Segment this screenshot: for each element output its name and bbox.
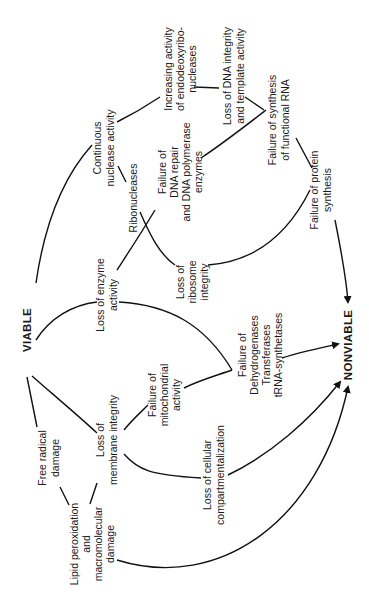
node-ribosome: Loss of ribosome integrity bbox=[174, 260, 210, 303]
node-dna-integrity: Loss of DNA integrity and template activ… bbox=[221, 26, 246, 125]
svg-text:Loss of DNA integrity: Loss of DNA integrity bbox=[221, 26, 233, 125]
cell-viability-flow-diagram: VIABLE NONVIABLE Free radical damage Lip… bbox=[0, 0, 369, 592]
svg-text:Ribonucleases: Ribonucleases bbox=[127, 164, 139, 233]
svg-text:Failure of synthesis: Failure of synthesis bbox=[266, 75, 278, 165]
svg-text:Failure of: Failure of bbox=[236, 333, 248, 377]
svg-text:nucleases: nucleases bbox=[186, 45, 198, 92]
svg-text:compartmentalization: compartmentalization bbox=[214, 425, 226, 525]
svg-text:Dehydrogenases: Dehydrogenases bbox=[248, 315, 260, 394]
svg-text:Continuous: Continuous bbox=[91, 121, 103, 174]
svg-text:damage: damage bbox=[104, 525, 116, 563]
node-endodeoxyribonucleases: Increasing activity of endodeoxyribo- nu… bbox=[162, 26, 198, 111]
svg-text:and template activity: and template activity bbox=[234, 27, 246, 123]
svg-text:damage: damage bbox=[49, 439, 61, 477]
node-membrane-integrity: Loss of membrane integrity bbox=[94, 394, 119, 485]
svg-text:Failure of protein: Failure of protein bbox=[308, 150, 320, 229]
svg-text:Increasing activity: Increasing activity bbox=[162, 27, 174, 111]
node-lipid-peroxidation: Lipid peroxidation and macromolecular da… bbox=[68, 503, 116, 585]
svg-text:Loss of: Loss of bbox=[174, 265, 186, 299]
node-enzymes-failure: Failure of Dehydrogenases Transferases t… bbox=[236, 313, 284, 398]
svg-text:and: and bbox=[80, 535, 92, 553]
svg-text:nuclease activity: nuclease activity bbox=[104, 109, 116, 187]
node-enzyme-loss: Loss of enzyme activity bbox=[94, 258, 119, 332]
node-continuous-nuclease: Continuous nuclease activity bbox=[91, 109, 116, 187]
svg-text:tRNA-synthetases: tRNA-synthetases bbox=[272, 313, 284, 398]
node-compartmentalization: Loss of cellular compartmentalization bbox=[201, 425, 226, 525]
node-dna-repair: Failure of DNA repair and DNA polymerase… bbox=[156, 122, 204, 221]
node-ribonucleases: Ribonucleases bbox=[127, 164, 139, 233]
svg-text:Free radical: Free radical bbox=[36, 430, 48, 485]
svg-text:DNA repair: DNA repair bbox=[168, 146, 180, 198]
svg-text:activity: activity bbox=[170, 378, 182, 411]
svg-text:ribosome: ribosome bbox=[186, 260, 198, 303]
node-viable: VIABLE bbox=[21, 308, 33, 352]
svg-text:Transferases: Transferases bbox=[260, 325, 272, 386]
svg-text:Lipid peroxidation: Lipid peroxidation bbox=[68, 503, 80, 585]
node-protein-failure: Failure of protein synthesis bbox=[308, 150, 333, 229]
svg-text:Loss of enzyme: Loss of enzyme bbox=[94, 258, 106, 332]
svg-text:synthesis: synthesis bbox=[321, 168, 333, 212]
svg-text:Loss of: Loss of bbox=[94, 423, 106, 457]
svg-text:enzymes: enzymes bbox=[192, 151, 204, 193]
svg-text:Failure of: Failure of bbox=[156, 150, 168, 194]
node-rna-failure: Failure of synthesis of functional RNA bbox=[266, 75, 291, 165]
svg-text:membrane integrity: membrane integrity bbox=[107, 394, 119, 485]
svg-text:and DNA polymerase: and DNA polymerase bbox=[180, 122, 192, 221]
svg-text:activity: activity bbox=[107, 278, 119, 311]
node-nonviable: NONVIABLE bbox=[342, 310, 354, 380]
svg-text:Loss of cellular: Loss of cellular bbox=[201, 439, 213, 510]
svg-text:Failure of: Failure of bbox=[146, 373, 158, 417]
node-free-radical: Free radical damage bbox=[36, 430, 61, 485]
node-mitochondrial: Failure of mitochondrial activity bbox=[146, 364, 182, 426]
svg-text:integrity: integrity bbox=[198, 263, 210, 301]
svg-text:mitochondrial: mitochondrial bbox=[158, 364, 170, 426]
svg-text:NONVIABLE: NONVIABLE bbox=[342, 310, 354, 380]
svg-text:of functional RNA: of functional RNA bbox=[279, 79, 291, 161]
svg-text:macromolecular: macromolecular bbox=[92, 506, 104, 581]
svg-text:of endodeoxyribo-: of endodeoxyribo- bbox=[174, 26, 186, 111]
svg-text:VIABLE: VIABLE bbox=[21, 308, 33, 352]
